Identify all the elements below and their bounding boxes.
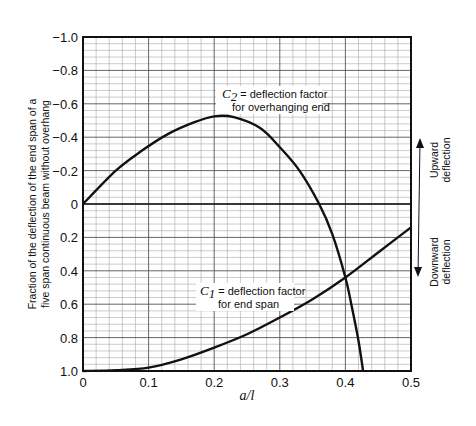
arrow-up-icon — [416, 138, 424, 148]
y-tick-label: 0.2 — [60, 230, 78, 245]
svg-text:Downward: Downward — [428, 237, 440, 287]
y-tick-label: −0.6 — [52, 97, 78, 112]
y-axis-label: Fraction of the deflection of the end sp… — [26, 98, 51, 309]
svg-text:five span continuous beam with: five span continuous beam without overha… — [39, 100, 51, 308]
series-lines — [83, 116, 411, 371]
y-tick-label: −1.0 — [52, 30, 78, 45]
svg-text:Upward: Upward — [428, 142, 440, 178]
series-c2-line — [83, 116, 363, 371]
svg-text:deflection: deflection — [440, 239, 452, 284]
x-tick-label: 0.4 — [336, 375, 354, 390]
y-tick-labels: −1.0−0.8−0.6−0.4−0.200.20.40.60.81.0 — [52, 30, 78, 379]
y-tick-label: −0.2 — [52, 164, 78, 179]
x-tick-label: 0 — [79, 375, 86, 390]
x-tick-label: 0.5 — [402, 375, 420, 390]
downward-deflection-label: Downward deflection — [428, 237, 452, 287]
y-tick-label: 0.8 — [60, 331, 78, 346]
y-tick-label: 0.4 — [60, 264, 78, 279]
x-tick-label: 0.2 — [205, 375, 223, 390]
c2-label-line2: for overhanging end — [232, 101, 330, 113]
c1-label-line2: for end span — [218, 298, 279, 310]
y-tick-label: −0.4 — [52, 130, 78, 145]
direction-arrow — [414, 138, 424, 277]
x-tick-label: 0.1 — [140, 375, 158, 390]
y-tick-label: 0 — [71, 197, 78, 212]
y-tick-label: 1.0 — [60, 364, 78, 379]
x-axis-label: a/l — [240, 388, 255, 403]
arrow-down-icon — [414, 267, 422, 277]
svg-text:Fraction of the deflection of: Fraction of the deflection of the end sp… — [26, 98, 38, 309]
deflection-chart: −1.0−0.8−0.6−0.4−0.200.20.40.60.81.0 00.… — [0, 0, 476, 426]
svg-text:deflection: deflection — [440, 137, 452, 182]
upward-deflection-label: Upward deflection — [428, 137, 452, 182]
y-tick-label: 0.6 — [60, 297, 78, 312]
y-tick-label: −0.8 — [52, 63, 78, 78]
x-tick-label: 0.3 — [271, 375, 289, 390]
